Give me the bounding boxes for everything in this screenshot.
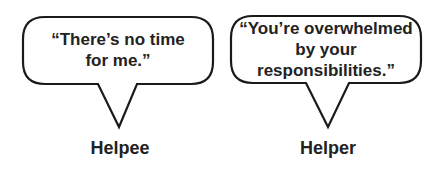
helpee-label: Helpee xyxy=(70,138,170,159)
helpee-quote: “There’s no time for me.” xyxy=(23,29,213,71)
helpee-quote-line: for me.” xyxy=(23,50,213,71)
helpee-quote-line: “There’s no time xyxy=(23,29,213,50)
helper-quote-line: “You’re overwhelmed xyxy=(231,18,421,39)
helper-label: Helper xyxy=(278,138,378,159)
helper-quote-line: by your xyxy=(231,39,421,60)
helper-quote: “You’re overwhelmed by your responsibili… xyxy=(231,18,421,81)
helper-quote-line: responsibilities.” xyxy=(231,60,421,81)
